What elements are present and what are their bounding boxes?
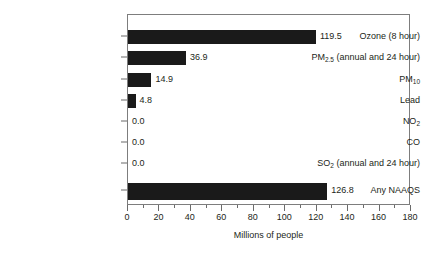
value-label-0: 119.5 <box>315 31 342 41</box>
x-tick-130 <box>331 205 332 208</box>
x-axis-ticks <box>127 205 410 211</box>
x-tick-label-0: 0 <box>124 212 129 222</box>
value-label-4: 0.0 <box>127 116 145 126</box>
value-label-3: 4.8 <box>135 95 153 105</box>
x-tick-label-9: 180 <box>402 212 417 222</box>
x-tick-100 <box>284 205 285 211</box>
y-tick-0 <box>121 36 127 37</box>
x-tick-140 <box>347 205 348 211</box>
y-tick-3 <box>121 100 127 101</box>
bar-1 <box>128 51 186 65</box>
x-tick-90 <box>269 205 270 208</box>
bar-2 <box>128 73 151 87</box>
value-label-1: 36.9 <box>185 52 208 62</box>
x-tick-170 <box>394 205 395 208</box>
y-axis-label-5: CO <box>309 137 427 147</box>
x-tick-160 <box>379 205 380 211</box>
y-tick-7 <box>121 190 127 191</box>
y-axis-label-2: PM10 <box>309 74 427 84</box>
x-tick-180 <box>410 205 411 211</box>
x-tick-label-5: 100 <box>277 212 292 222</box>
bar-7 <box>128 183 327 200</box>
x-axis-tick-labels: 020406080100120140160180 <box>127 212 410 224</box>
bar-chart-figure: Ozone (8 hour)PM2.5 (annual and 24 hour)… <box>0 0 427 256</box>
x-tick-120 <box>316 205 317 211</box>
x-tick-40 <box>190 205 191 211</box>
x-tick-label-6: 120 <box>308 212 323 222</box>
bar-0 <box>128 30 316 44</box>
y-axis-label-6: SO2 (annual and 24 hour) <box>309 158 427 168</box>
x-tick-80 <box>253 205 254 211</box>
x-tick-150 <box>363 205 364 208</box>
plot-area <box>127 14 410 205</box>
value-label-5: 0.0 <box>127 137 145 147</box>
y-axis-label-3: Lead <box>309 95 427 105</box>
x-tick-70 <box>237 205 238 208</box>
x-axis-title: Millions of people <box>127 230 410 240</box>
x-tick-30 <box>174 205 175 208</box>
x-tick-label-1: 20 <box>153 212 163 222</box>
y-tick-1 <box>121 57 127 58</box>
x-tick-10 <box>143 205 144 208</box>
x-tick-20 <box>158 205 159 211</box>
x-tick-label-3: 60 <box>216 212 226 222</box>
x-tick-50 <box>206 205 207 208</box>
value-label-7: 126.8 <box>326 185 354 195</box>
x-tick-label-8: 160 <box>371 212 386 222</box>
x-tick-60 <box>221 205 222 211</box>
y-tick-2 <box>121 79 127 80</box>
x-tick-0 <box>127 205 128 211</box>
y-axis-label-4: NO2 <box>309 116 427 126</box>
x-tick-label-2: 40 <box>185 212 195 222</box>
x-tick-label-7: 140 <box>340 212 355 222</box>
x-tick-label-4: 80 <box>248 212 258 222</box>
value-label-2: 14.9 <box>150 74 173 84</box>
x-tick-110 <box>300 205 301 208</box>
value-label-6: 0.0 <box>127 158 145 168</box>
y-axis-label-1: PM2.5 (annual and 24 hour) <box>309 52 427 62</box>
